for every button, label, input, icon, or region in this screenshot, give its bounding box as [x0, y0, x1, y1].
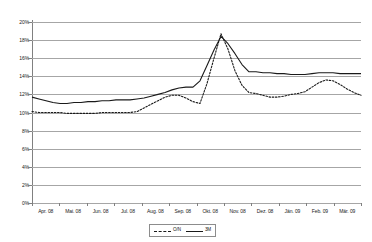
- x-axis-tick-label: Jul. 08: [121, 208, 135, 214]
- x-axis-tick: [142, 203, 143, 206]
- x-axis-tick: [197, 203, 198, 206]
- chart-container: 0%2%4%6%8%10%12%14%16%18%20% Apr. 08Mai.…: [0, 0, 372, 242]
- legend-item-on: O/N: [154, 228, 181, 233]
- x-axis-tick: [169, 203, 170, 206]
- x-axis-tick: [114, 203, 115, 206]
- x-axis-tick: [224, 203, 225, 206]
- x-axis-tick: [334, 203, 335, 206]
- legend-label-3m: 3M: [205, 228, 211, 233]
- x-axis-tick-label: Okt. 08: [202, 208, 217, 214]
- series-line-3m: [32, 36, 361, 103]
- x-axis-tick-label: Mär. 09: [339, 208, 355, 214]
- x-axis-tick: [279, 203, 280, 206]
- x-axis-tick-label: Mai. 08: [65, 208, 81, 214]
- x-axis-tick-label: Jun. 08: [93, 208, 109, 214]
- x-axis-tick-label: Nov. 08: [230, 208, 246, 214]
- x-axis-tick-label: Feb. 09: [312, 208, 328, 214]
- x-axis-tick-label: Apr. 08: [38, 208, 53, 214]
- x-axis-tick-label: Sep. 08: [175, 208, 192, 214]
- dashed-line-swatch-icon: [154, 229, 171, 233]
- x-axis-tick: [361, 203, 362, 206]
- x-axis-tick: [251, 203, 252, 206]
- legend-item-3m: 3M: [186, 228, 211, 233]
- y-axis-labels: 0%2%4%6%8%10%12%14%16%18%20%: [0, 22, 29, 203]
- x-axis-labels: Apr. 08Mai. 08Jun. 08Jul. 08Aug. 08Sep. …: [32, 203, 361, 221]
- x-axis-tick-label: Aug. 08: [147, 208, 164, 214]
- plot-area: [32, 22, 361, 203]
- series-lines: [32, 22, 361, 203]
- x-axis-tick: [59, 203, 60, 206]
- legend-label-on: O/N: [173, 228, 181, 233]
- solid-line-swatch-icon: [186, 229, 203, 233]
- x-axis-tick-label: Jän. 09: [285, 208, 301, 214]
- x-axis-tick: [87, 203, 88, 206]
- x-axis-tick: [32, 203, 33, 206]
- x-axis-tick: [306, 203, 307, 206]
- chart-legend: O/N 3M: [149, 224, 216, 237]
- x-axis-tick-label: Dez. 08: [257, 208, 274, 214]
